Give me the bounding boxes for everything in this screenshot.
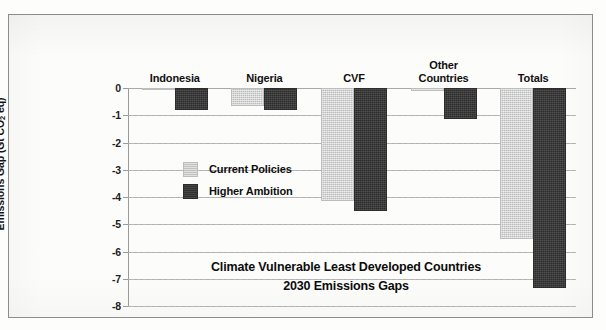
y-axis-tick-label--6: -6 [112,246,121,258]
y-axis-tick--6 [123,252,128,253]
y-axis-tick--7 [123,279,128,280]
bar-indonesia-current-policies [142,88,175,90]
y-axis-tick--3 [123,170,128,171]
legend-item-current-policies: Current Policies [183,158,293,180]
legend-swatch-current-policies [183,162,198,177]
y-axis-tick-label--7: -7 [112,273,121,285]
y-axis-tick-0 [123,88,128,89]
bar-nigeria-current-policies [231,88,264,106]
category-label-indonesia: Indonesia [142,72,208,85]
chart-legend: Current Policies Higher Ambition [183,158,293,202]
y-axis-tick-label-0: 0 [115,82,121,94]
y-axis-tick-label--5: -5 [112,218,121,230]
gridline--8: -8 [128,306,576,307]
legend-swatch-higher-ambition [183,184,198,199]
screenshot-canvas: Emissions Gap (Gt CO2 eq) 0-1-2-3-4-5-6-… [0,0,606,330]
y-axis-title: Emissions Gap (Gt CO2 eq) [0,54,7,274]
y-axis-tick--1 [123,115,128,116]
y-axis-tick--4 [123,197,128,198]
y-axis-tick-label--1: -1 [112,109,121,121]
chart-title: Climate Vulnerable Least Developed Count… [136,258,556,296]
y-axis-title-prefix: Emissions Gap (Gt CO [0,120,6,231]
category-label-nigeria: Nigeria [231,72,297,85]
legend-label-current-policies: Current Policies [209,163,292,175]
y-axis-tick-label--3: -3 [112,164,121,176]
legend-label-higher-ambition: Higher Ambition [209,185,293,197]
category-label-totals: Totals [500,72,566,85]
y-axis-title-subscript: 2 [0,116,7,120]
category-label-other-countries: Other Countries [411,59,477,84]
chart-title-line1: Climate Vulnerable Least Developed Count… [211,260,481,274]
y-axis-title-suffix: eq) [0,98,6,116]
bar-indonesia-higher-ambition [175,88,208,110]
y-axis-tick-label--2: -2 [112,137,121,149]
category-label-cvf: CVF [321,72,387,85]
y-axis-tick-label--4: -4 [112,191,121,203]
y-axis-tick--5 [123,224,128,225]
y-axis-tick--2 [123,143,128,144]
bar-cvf-higher-ambition [354,88,387,211]
bar-other-countries-higher-ambition [444,88,477,119]
bar-other-countries-current-policies [411,88,444,91]
y-axis-tick--8 [123,306,128,307]
y-axis-tick-label--8: -8 [112,300,121,312]
legend-item-higher-ambition: Higher Ambition [183,180,293,202]
chart-title-line2: 2030 Emissions Gaps [136,277,556,296]
bar-nigeria-higher-ambition [264,88,297,110]
bar-totals-current-policies [500,88,533,239]
bar-cvf-current-policies [321,88,354,201]
